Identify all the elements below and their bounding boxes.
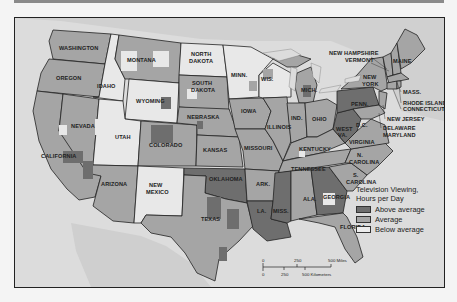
label-new-york-1: NEW [363, 74, 377, 80]
state-florida [299, 213, 363, 263]
label-virginia: VIRGINIA [349, 139, 375, 145]
scale-km-250: 250 [281, 272, 289, 277]
label-idaho: IDAHO [97, 83, 116, 89]
scale-km-0: 0 [262, 272, 265, 277]
label-massachusetts: MASS. [403, 89, 422, 95]
label-connecticut: CONNECTICUT [403, 106, 444, 112]
label-vermont: VERMONT [345, 57, 374, 63]
label-texas: TEXAS [201, 216, 220, 222]
label-north-carolina-1: N. [357, 152, 363, 158]
legend-item-below: Below average [356, 225, 444, 234]
legend: Television Viewing, Hours per Day Above … [356, 185, 444, 235]
label-dc: D.C. [356, 122, 368, 128]
label-north-dakota-2: DAKOTA [189, 58, 213, 64]
label-montana: MONTANA [127, 57, 156, 63]
label-south-carolina-1: S. [353, 172, 359, 178]
scale-bar: 0 250 500 Miles 0 250 500 Kilometers [251, 257, 351, 281]
label-maine: MAINE [393, 58, 412, 64]
label-south-dakota-1: SOUTH [192, 80, 212, 86]
label-indiana: IND. [291, 115, 303, 121]
label-nevada: NEVADA [71, 123, 95, 129]
label-tennessee: TENNESSEE [291, 166, 326, 172]
label-ohio: OHIO [312, 116, 327, 122]
label-mississippi: MISS. [273, 208, 289, 214]
label-michigan: MICH. [301, 87, 318, 93]
label-washington: WASHINGTON [59, 45, 98, 51]
legend-item-above: Above average [356, 205, 444, 214]
label-north-carolina-2: CAROLINA [349, 159, 379, 165]
label-georgia: GEORGIA [323, 194, 350, 200]
label-wyoming: WYOMING [136, 98, 165, 104]
scale-mile-250: 250 [294, 258, 302, 263]
top-rule [14, 0, 444, 3]
label-west-virginia-2: VA. [338, 132, 348, 138]
us-map: WASHINGTON OREGON IDAHO MONTANA WYOMING … [15, 18, 444, 287]
scale-mile-0: 0 [262, 258, 265, 263]
label-alabama: ALA. [303, 196, 317, 202]
legend-title: Television Viewing, Hours per Day [356, 185, 444, 203]
label-iowa: IOWA [241, 108, 256, 114]
swatch-below [356, 226, 371, 233]
label-new-mexico-2: MEXICO [146, 189, 169, 195]
map-frame: WASHINGTON OREGON IDAHO MONTANA WYOMING … [14, 17, 445, 288]
swatch-average [356, 216, 371, 223]
label-missouri: MISSOURI [244, 145, 273, 151]
label-new-york-2: YORK [362, 81, 379, 87]
label-utah: UTAH [115, 134, 131, 140]
label-minnesota: MINN. [231, 72, 248, 78]
label-illinois: ILLINOIS [267, 124, 292, 130]
label-kentucky: KENTUCKY [299, 146, 331, 152]
swatch-above [356, 206, 371, 213]
label-kansas: KANSAS [203, 147, 227, 153]
label-delaware: DELAWARE [383, 125, 416, 131]
label-louisiana: LA. [257, 208, 267, 214]
label-new-hampshire: NEW HAMPSHIRE [329, 50, 379, 56]
label-new-jersey: NEW JERSEY [387, 116, 425, 122]
label-south-dakota-2: DAKOTA [191, 87, 215, 93]
scale-bar-graphic: 0 250 500 Miles 0 250 500 Kilometers [251, 257, 351, 281]
label-wisconsin: WIS. [261, 76, 274, 82]
scale-mile-500: 500 Miles [328, 258, 348, 263]
legend-item-average: Average [356, 215, 444, 224]
label-nebraska: NEBRASKA [187, 114, 220, 120]
label-oklahoma: OKLAHOMA [209, 176, 243, 182]
label-california: CALIFORNIA [41, 153, 77, 159]
scale-km-500: 500 Kilometers [302, 272, 332, 277]
state-indiana [287, 103, 307, 143]
label-pennsylvania: PENN. [351, 101, 369, 107]
label-new-mexico-1: NEW [149, 182, 163, 188]
label-oregon: OREGON [56, 75, 81, 81]
label-colorado: COLORADO [149, 142, 183, 148]
label-maryland: MARYLAND [383, 132, 416, 138]
label-arkansas: ARK. [256, 181, 270, 187]
label-arizona: ARIZONA [101, 181, 127, 187]
label-north-dakota-1: NORTH [191, 51, 211, 57]
